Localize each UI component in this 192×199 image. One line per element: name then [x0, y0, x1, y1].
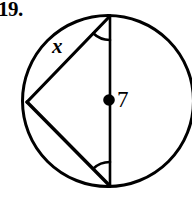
- chord-length-label: x: [52, 36, 63, 57]
- radius-length-label: 7: [117, 88, 129, 111]
- circle-diagram: [0, 0, 192, 199]
- chord-upper-line: [27, 16, 110, 102]
- chord-lower-line: [27, 102, 110, 186]
- center-dot-icon: [103, 94, 115, 106]
- angle-arc-icon-top: [93, 33, 110, 40]
- angle-arc-icon-bottom: [93, 162, 110, 169]
- geometry-figure: 19. x 7: [0, 0, 192, 199]
